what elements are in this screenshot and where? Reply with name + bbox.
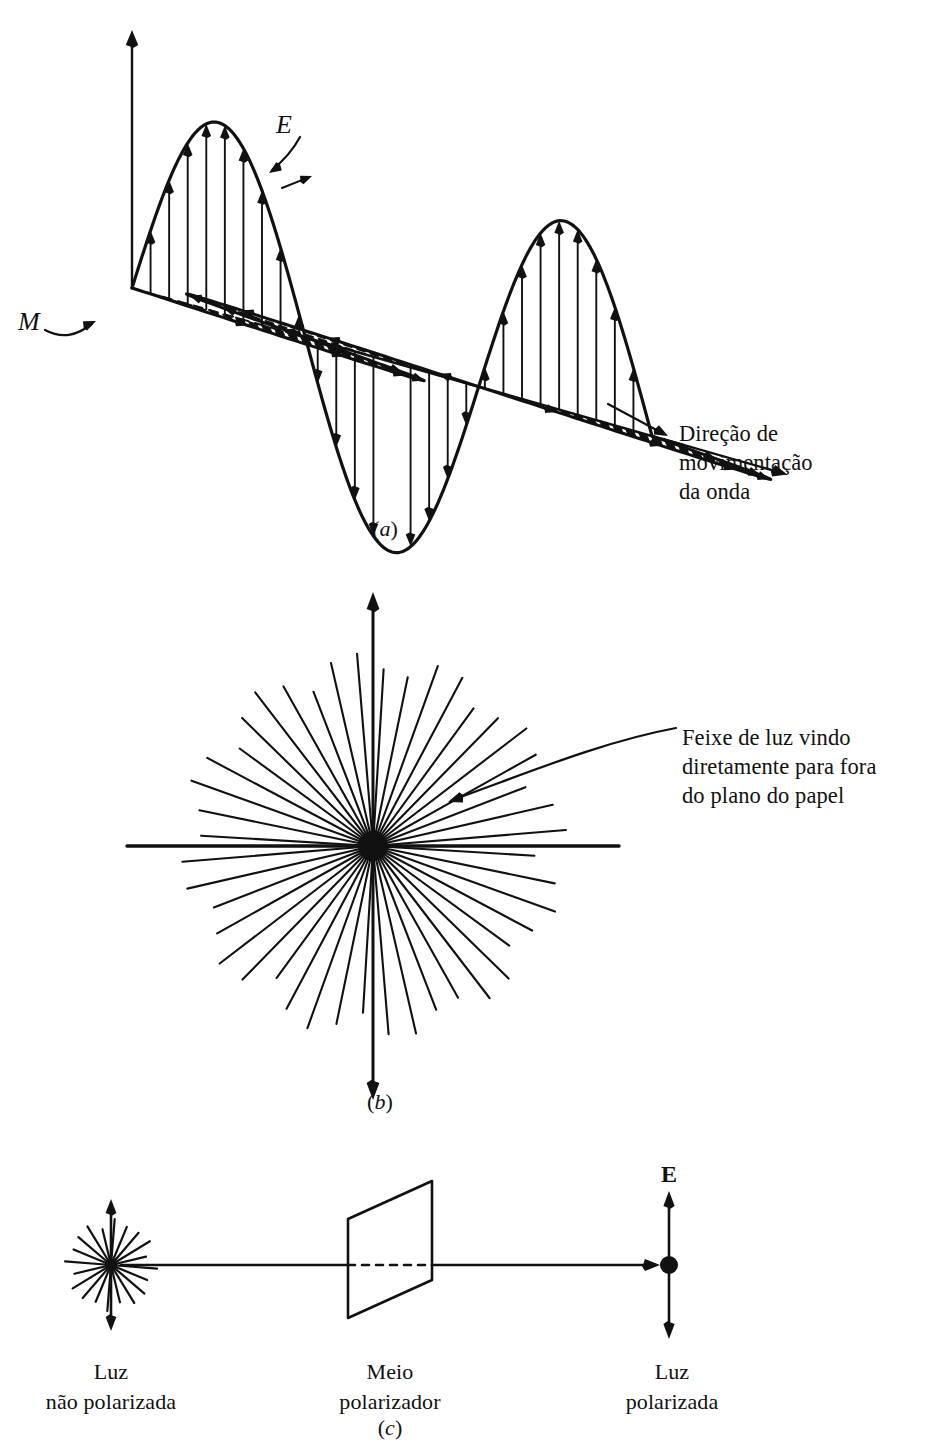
e-vector	[276, 248, 286, 330]
light-ray	[373, 830, 566, 846]
callout-leader-head	[448, 792, 463, 802]
vertical-axis-arrow-head	[126, 30, 138, 48]
m-label-leader	[45, 321, 96, 335]
polarizer-outline	[348, 1181, 432, 1318]
panel-c-caption-left-line2: não polarizada	[11, 1388, 211, 1417]
panel-a-e-label: E	[276, 108, 292, 142]
e-vector	[536, 233, 546, 404]
panel-a-letter: (a)	[335, 515, 435, 544]
direction-leader-head	[654, 425, 668, 436]
e-vector	[480, 367, 490, 388]
vertical-axis	[126, 30, 138, 288]
panel-a-direction-line2: movimentação	[679, 448, 813, 477]
callout-leader-curve	[452, 728, 676, 800]
panel-c-letter-italic: c	[385, 1415, 395, 1440]
vertical-up-head	[367, 592, 380, 612]
e-vector	[183, 143, 193, 304]
e-vector	[201, 124, 211, 309]
e-vector	[369, 357, 379, 536]
source-down-head	[106, 1314, 117, 1331]
e-label-leader	[269, 137, 312, 188]
light-ray	[373, 846, 509, 979]
e-vector	[554, 221, 564, 410]
propagation-dot	[660, 1256, 678, 1274]
light-ray	[182, 846, 373, 862]
m-vector-head	[190, 295, 203, 304]
e-vector	[443, 378, 453, 479]
panel-a-m-label: M	[18, 305, 40, 339]
panel-b-callout-leader	[448, 728, 676, 802]
beam-after-polarizer-head	[642, 1259, 660, 1271]
panel-c	[65, 1181, 678, 1339]
panel-a-direction-line3: da onda	[679, 477, 750, 506]
e-field	[132, 122, 652, 553]
e-secondary-arrow-head	[300, 176, 312, 185]
m-vector-head	[411, 373, 424, 382]
panel-c-caption-mid-line1: Meio	[290, 1358, 490, 1387]
panel-a	[45, 30, 787, 553]
panel-b	[127, 592, 676, 1100]
m-vector	[439, 373, 470, 384]
panel-a-direction-line1: Direção de	[679, 419, 778, 448]
polarizer-plate	[348, 1181, 432, 1318]
m-vector	[262, 325, 402, 373]
e-vector	[591, 259, 601, 420]
e-vector	[424, 373, 434, 522]
e-vector	[257, 191, 267, 325]
polarized-output	[660, 1191, 678, 1339]
e-vector	[573, 230, 583, 415]
e-vector	[517, 265, 527, 399]
panel-b-callout-line3: do plano do papel	[682, 781, 844, 810]
light-ray	[242, 718, 373, 846]
light-ray	[373, 718, 498, 846]
light-ray	[373, 846, 389, 1034]
panel-c-caption-right-line1: Luz	[572, 1358, 772, 1387]
e-vector	[239, 149, 249, 320]
e-vector	[164, 180, 174, 298]
panel-c-caption-left-line1: Luz	[11, 1358, 211, 1387]
output-down-head	[663, 1321, 674, 1339]
panel-c-e-label: E	[661, 1159, 677, 1190]
panel-c-caption-mid-line2: polarizador	[290, 1388, 490, 1417]
e-vector	[220, 126, 230, 315]
light-ray	[242, 846, 373, 980]
panel-b-callout-line1: Feixe de luz vindo	[682, 723, 851, 752]
panel-b-letter: (b)	[330, 1088, 430, 1117]
panel-b-callout-line2: diretamente para fora	[682, 752, 876, 781]
m-vector	[190, 295, 366, 355]
e-vector	[629, 368, 639, 431]
panel-b-letter-italic: b	[374, 1089, 385, 1114]
source-up-head	[106, 1199, 117, 1216]
output-up-head	[663, 1191, 674, 1209]
e-vector	[146, 231, 156, 294]
polarization-figure: E M Direção de movimentação da onda (a) …	[0, 0, 931, 1456]
e-vector	[499, 311, 509, 393]
light-beam	[121, 1259, 660, 1271]
m-vector-shaft	[210, 310, 378, 366]
panel-a-letter-italic: a	[379, 516, 390, 541]
panel-c-caption-right-line2: polarizada	[572, 1388, 772, 1417]
e-vector	[350, 351, 360, 500]
m-vector-head	[439, 373, 452, 382]
panel-c-letter: (c)	[340, 1414, 440, 1443]
e-field-curve	[132, 122, 652, 553]
light-ray	[357, 654, 373, 846]
m-field	[132, 288, 771, 480]
m-vector	[184, 303, 344, 357]
